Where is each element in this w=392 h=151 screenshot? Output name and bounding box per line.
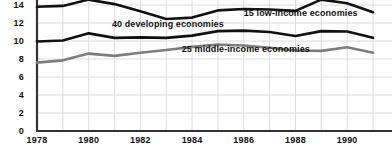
x-tick-label: 1982	[130, 136, 151, 145]
series-annotation: 40 developing economies	[112, 20, 224, 29]
series-annotation: 15 low-income economies	[244, 9, 358, 18]
series-line-1	[37, 31, 373, 42]
series-annotation: 25 middle-income economies	[182, 45, 310, 54]
x-tick-label: 1986	[233, 136, 254, 145]
x-tick-label: 1988	[285, 136, 306, 145]
x-tick-label: 1984	[182, 136, 203, 145]
x-tick-label: 1980	[78, 136, 99, 145]
line-chart: 02468101214 1978198019821984198619881990…	[0, 0, 392, 151]
x-tick-label: 1990	[337, 136, 358, 145]
x-tick-label: 1978	[27, 136, 48, 145]
